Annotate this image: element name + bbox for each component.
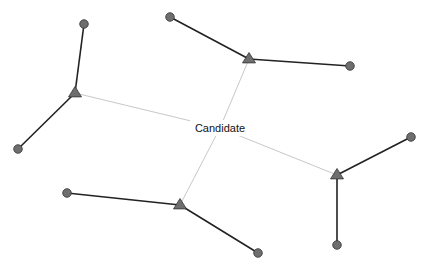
- weak-edge-B: [220, 59, 249, 128]
- circle-node-icon: [407, 133, 416, 142]
- strong-edge-A-0: [75, 24, 84, 93]
- network-diagram: Candidate: [0, 0, 426, 267]
- circle-node-icon: [80, 20, 89, 29]
- triangle-hub-icon: [243, 53, 256, 63]
- strong-edge-B-0: [170, 17, 249, 59]
- strong-edge-B-1: [249, 59, 350, 66]
- circle-node-icon: [333, 241, 342, 250]
- circle-node-icon: [346, 62, 355, 71]
- circle-node-icon: [166, 13, 175, 22]
- strong-edge-D-0: [67, 193, 180, 205]
- circle-node-icon: [254, 249, 263, 258]
- circle-node-icon: [63, 189, 72, 198]
- circle-node-icon: [14, 145, 23, 154]
- triangle-hub-icon: [174, 199, 187, 209]
- strong-edge-A-1: [18, 93, 75, 149]
- weak-edge-D: [180, 128, 220, 205]
- center-label: Candidate: [195, 122, 245, 134]
- strong-edge-D-1: [180, 205, 258, 253]
- strong-edge-C-0: [337, 137, 411, 175]
- triangle-hub-icon: [69, 87, 82, 97]
